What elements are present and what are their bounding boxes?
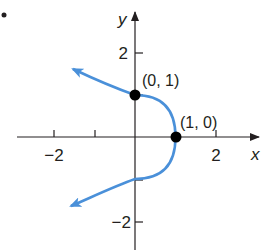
curve-lower-branch <box>71 179 135 206</box>
point-label-0-1: (0, 1) <box>142 72 179 89</box>
point-1-0 <box>171 132 182 143</box>
point-label-1-0: (1, 0) <box>180 114 217 131</box>
curve-upper-branch <box>73 69 135 95</box>
point-0-1 <box>130 90 141 101</box>
y-tick-label-2: 2 <box>119 44 128 63</box>
y-tick-label-neg2: −2 <box>112 213 131 232</box>
x-tick-label-neg2: −2 <box>44 146 63 165</box>
parabola-graph: −2 2 2 −2 x y (0, 1) (1, 0) <box>0 0 267 252</box>
y-axis-label: y <box>117 10 128 29</box>
x-tick-label-2: 2 <box>211 146 220 165</box>
x-axis-label: x <box>250 145 260 164</box>
problem-marker <box>2 13 7 18</box>
